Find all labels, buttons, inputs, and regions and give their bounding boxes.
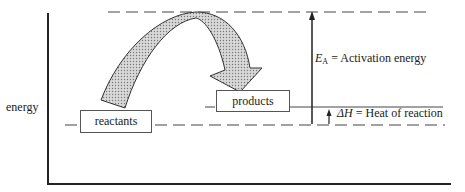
reactants-label: reactants [95,114,138,129]
reactants-box: reactants [80,110,152,133]
heat-text: Heat of reaction [366,106,443,120]
products-label: products [232,94,273,109]
heat-of-reaction-label: ΔH = Heat of reaction [337,106,443,121]
heat-equals: = [353,106,366,120]
energy-axis-label: energy [6,100,38,115]
heat-of-reaction-arrow [327,109,332,124]
products-box: products [216,90,290,112]
activation-equals: = [328,51,340,65]
heat-symbol: ΔH [337,106,353,120]
activation-text: Activation energy [340,51,426,65]
activation-energy-label: EA = Activation energy [315,51,426,66]
